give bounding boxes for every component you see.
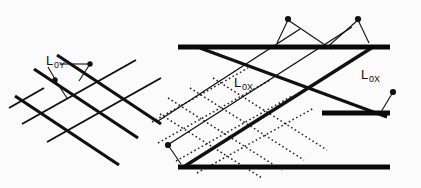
label-l0x-left-base: L	[234, 75, 241, 90]
label-l0y-subscript: 0Y	[54, 60, 65, 70]
label-l0x-right-subscript: 0X	[369, 74, 380, 84]
annotation-dot	[52, 77, 57, 82]
annotation-dot	[285, 16, 291, 22]
label-l0x-left-subscript: 0X	[242, 82, 253, 92]
annotation-dot	[390, 89, 396, 95]
annotation-dot	[165, 142, 171, 148]
figure-container: L 0Y	[0, 0, 421, 188]
annotation-dot	[87, 61, 92, 66]
technical-diagram: L 0Y	[0, 0, 421, 188]
annotation-dot	[355, 16, 361, 22]
label-l0x-right-base: L	[361, 67, 368, 82]
label-l0y-base: L	[46, 53, 53, 68]
figure-background	[0, 0, 421, 188]
